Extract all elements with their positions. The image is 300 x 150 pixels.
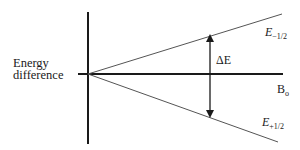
delta-e-label: ΔE: [216, 53, 231, 67]
diagram-svg: Energy difference ΔE Bo E−1/2 E+1/2: [0, 0, 300, 150]
lower-energy-line: [88, 74, 278, 142]
lower-level-label: E+1/2: [261, 115, 284, 131]
b0-label: Bo: [277, 82, 289, 98]
energy-diagram: Energy difference ΔE Bo E−1/2 E+1/2: [0, 0, 300, 150]
upper-energy-line: [88, 14, 282, 74]
upper-level-label: E−1/2: [264, 25, 287, 41]
y-axis-label-line2: difference: [13, 68, 64, 82]
